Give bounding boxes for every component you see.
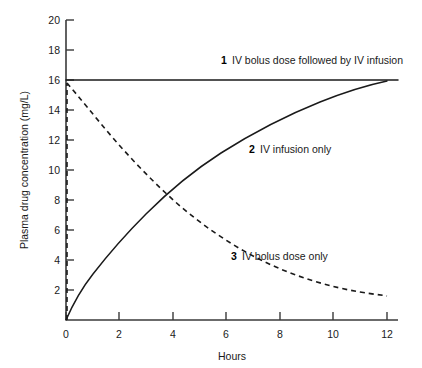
chart-canvas: 20 18 16 14 12 10 8 6 4 2 Plasma drug co… bbox=[0, 0, 422, 368]
x-tick-label-0: 0 bbox=[63, 328, 69, 340]
series-2-infusion-only bbox=[66, 81, 387, 320]
y-tick-label-20: 20 bbox=[48, 14, 60, 26]
annotation-1-number: 1 bbox=[221, 54, 227, 66]
curve-line-2 bbox=[66, 81, 387, 320]
x-axis-title: Hours bbox=[218, 350, 246, 362]
annotation-3: 3 IV bolus dose only bbox=[231, 250, 329, 262]
annotation-2-text: IV infusion only bbox=[260, 143, 332, 155]
annotation-1-text: IV bolus dose followed by IV infusion bbox=[232, 54, 403, 66]
y-axis: 20 18 16 14 12 10 8 6 4 2 Plasma drug co… bbox=[18, 14, 74, 320]
y-axis-tick-labels: 20 18 16 14 12 10 8 6 4 2 bbox=[48, 14, 60, 296]
annotation-3-number: 3 bbox=[231, 250, 237, 262]
annotation-2: 2 IV infusion only bbox=[249, 143, 332, 155]
annotation-3-text: IV bolus dose only bbox=[242, 250, 329, 262]
y-tick-label-18: 18 bbox=[48, 44, 60, 56]
annotation-2-number: 2 bbox=[249, 143, 255, 155]
y-tick-label-12: 12 bbox=[48, 134, 60, 146]
x-tick-label-8: 8 bbox=[277, 328, 283, 340]
x-axis-ticks bbox=[66, 312, 387, 320]
y-tick-label-2: 2 bbox=[54, 284, 60, 296]
x-tick-label-4: 4 bbox=[170, 328, 176, 340]
y-tick-label-10: 10 bbox=[48, 164, 60, 176]
x-axis: 0 2 4 6 8 10 12 Hours bbox=[63, 312, 398, 362]
y-tick-label-14: 14 bbox=[48, 104, 60, 116]
y-axis-title: Plasma drug concentration (mg/L) bbox=[18, 91, 30, 249]
x-tick-label-6: 6 bbox=[223, 328, 229, 340]
y-tick-label-4: 4 bbox=[54, 254, 60, 266]
x-tick-label-12: 12 bbox=[381, 328, 393, 340]
x-axis-tick-labels: 0 2 4 6 8 10 12 bbox=[63, 328, 393, 340]
y-tick-label-6: 6 bbox=[54, 224, 60, 236]
y-tick-label-16: 16 bbox=[48, 74, 60, 86]
y-tick-label-8: 8 bbox=[54, 194, 60, 206]
curve-line-3 bbox=[67, 83, 387, 296]
annotation-1: 1 IV bolus dose followed by IV infusion bbox=[221, 54, 403, 66]
x-tick-label-10: 10 bbox=[327, 328, 339, 340]
series-3-bolus-only bbox=[67, 83, 387, 320]
x-tick-label-2: 2 bbox=[116, 328, 122, 340]
pharmacokinetics-chart-figure: 20 18 16 14 12 10 8 6 4 2 Plasma drug co… bbox=[0, 0, 422, 368]
